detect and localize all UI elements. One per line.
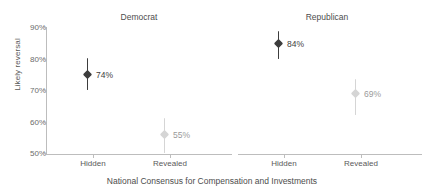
x-axis-line-democrat [46,154,232,155]
x-tick-mark-republican-revealed [361,155,362,158]
x-tick-mark-democrat-hidden [93,155,94,158]
panel-title-democrat: Democrat [109,12,169,22]
data-point-democrat-hidden[interactable] [83,70,92,79]
x-tick-label-republican-hidden: Hidden [254,159,314,168]
value-label-democrat-hidden: 74% [96,70,113,80]
data-point-republican-revealed[interactable] [351,89,360,98]
x-tick-mark-republican-hidden [284,155,285,158]
x-tick-mark-democrat-revealed [170,155,171,158]
x-axis-title: National Consensus for Compensation and … [0,176,424,186]
value-label-republican-hidden: 84% [287,39,304,49]
x-tick-label-democrat-revealed: Revealed [140,159,200,168]
y-tick-mark-90 [43,27,46,28]
chart-canvas: Likely reversal 90% 80% 70% 60% 50% Demo… [0,0,424,194]
value-label-democrat-revealed: 55% [173,130,190,140]
x-tick-label-republican-revealed: Revealed [331,159,391,168]
data-point-republican-hidden[interactable] [274,39,283,48]
data-point-democrat-revealed[interactable] [160,130,169,139]
y-axis-title: Likely reversal [13,20,22,110]
y-axis-line [46,27,47,154]
y-tick-label-80: 80% [16,55,46,64]
y-tick-label-90: 90% [16,23,46,32]
y-tick-mark-60 [43,122,46,123]
value-label-republican-revealed: 69% [364,89,381,99]
y-tick-label-60: 60% [16,118,46,127]
y-tick-mark-70 [43,90,46,91]
x-tick-label-democrat-hidden: Hidden [63,159,123,168]
y-tick-mark-80 [43,59,46,60]
y-tick-label-50: 50% [16,149,46,158]
y-tick-label-70: 70% [16,86,46,95]
x-axis-line-republican [238,154,422,155]
panel-title-republican: Republican [297,12,357,22]
